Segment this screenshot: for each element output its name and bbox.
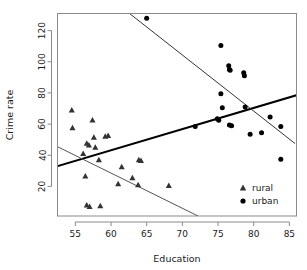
y-tick-label: 80 [38, 87, 48, 99]
y-tick-label: 120 [38, 22, 48, 39]
data-point-urban [229, 123, 234, 128]
data-point-urban [243, 104, 248, 109]
y-tick-label: 20 [38, 180, 48, 192]
data-point-urban [278, 124, 283, 129]
chart-canvas: 55606570758085 20406080100120 Education … [0, 0, 307, 270]
data-point-urban [220, 105, 225, 110]
scatter-plot-figure: 55606570758085 20406080100120 Education … [0, 0, 307, 270]
data-point-urban [248, 132, 253, 137]
x-axis-title: Education [153, 253, 200, 264]
data-point-urban [144, 16, 149, 21]
data-point-urban [193, 124, 198, 129]
data-point-urban [216, 118, 221, 123]
x-tick-label: 70 [177, 229, 189, 239]
data-point-urban [218, 91, 223, 96]
x-tick-label: 55 [70, 229, 81, 239]
x-tick-label: 80 [248, 229, 260, 239]
x-tick-label: 65 [141, 229, 152, 239]
legend-label-urban: urban [252, 196, 278, 206]
legend-label-rural: rural [252, 183, 273, 193]
data-point-urban [259, 130, 264, 135]
data-point-urban [242, 73, 247, 78]
data-point-urban [268, 115, 273, 120]
legend-marker-urban [240, 198, 245, 203]
y-tick-label: 40 [38, 149, 48, 161]
data-point-urban [228, 68, 233, 73]
x-tick-label: 85 [284, 229, 295, 239]
y-axis-title: Crime rate [4, 90, 15, 141]
x-tick-label: 75 [212, 229, 223, 239]
x-tick-label: 60 [105, 229, 117, 239]
data-point-urban [278, 157, 283, 162]
data-point-urban [218, 43, 223, 48]
y-tick-label: 60 [38, 118, 48, 130]
y-tick-label: 100 [38, 53, 48, 70]
